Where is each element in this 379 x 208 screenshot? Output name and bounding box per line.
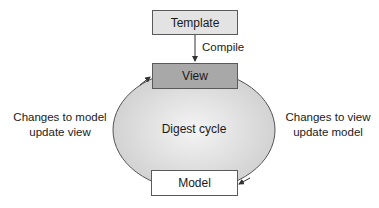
model-to-view-label: Changes to model update view — [8, 110, 112, 140]
model-label: Model — [178, 176, 211, 190]
model-to-view-line2: update view — [8, 125, 112, 140]
model-to-view-line1: Changes to model — [8, 110, 112, 125]
view-to-model-line2: update model — [278, 125, 378, 140]
model-node: Model — [151, 170, 238, 196]
template-node: Template — [152, 10, 238, 35]
template-label: Template — [171, 16, 220, 30]
compile-label: Compile — [202, 40, 244, 55]
view-to-model-line1: Changes to view — [278, 110, 378, 125]
view-label: View — [182, 69, 208, 83]
view-node: View — [152, 63, 238, 89]
digest-cycle-label: Digest cycle — [154, 122, 234, 137]
view-to-model-label: Changes to view update model — [278, 110, 378, 140]
